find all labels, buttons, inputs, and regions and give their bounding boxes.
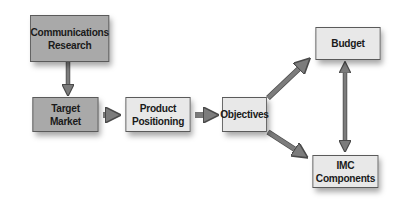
node-label: Budget (331, 37, 364, 50)
node-label: Product Positioning (132, 102, 184, 128)
node-label: IMC Components (316, 159, 375, 185)
node-target-market: Target Market (32, 97, 98, 132)
node-label: Objectives (220, 108, 269, 121)
node-objectives: Objectives (222, 97, 267, 132)
imc-planning-flow-diagram: Communications Research Target Market Pr… (0, 0, 413, 201)
arrow-objectives-to-imc (268, 132, 302, 154)
node-communications-research: Communications Research (30, 15, 109, 62)
node-label: Communications Research (30, 26, 108, 52)
node-label: Target Market (50, 102, 81, 128)
node-product-positioning: Product Positioning (125, 97, 190, 132)
node-imc-components: IMC Components (312, 155, 378, 188)
arrow-objectives-to-budget (268, 63, 305, 98)
node-budget: Budget (315, 27, 380, 60)
